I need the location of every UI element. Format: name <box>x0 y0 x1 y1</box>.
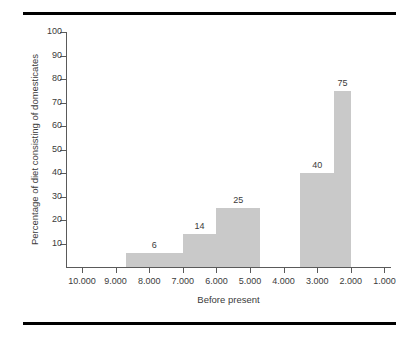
y-axis-tick-label: 90 <box>52 50 62 61</box>
x-axis-tick-mark <box>351 267 352 273</box>
bar <box>216 208 260 267</box>
x-axis-tick-label: 4.000 <box>272 276 295 287</box>
bar-value-label: 25 <box>233 195 243 206</box>
y-axis-tick-label: 50 <box>52 144 62 155</box>
y-axis-tick-label: 70 <box>52 97 62 108</box>
x-axis-tick-label: 10.000 <box>68 276 96 287</box>
bar <box>126 253 183 267</box>
bottom-rule <box>23 322 396 325</box>
y-axis-tick-label: 20 <box>52 214 62 225</box>
bar <box>300 173 334 267</box>
x-axis-tick-mark <box>149 267 150 273</box>
x-axis-tick-mark <box>384 267 385 273</box>
x-axis-tick-label: 6.000 <box>205 276 228 287</box>
y-axis-tick-label: 10 <box>52 238 62 249</box>
x-axis-tick-mark <box>216 267 217 273</box>
x-axis-tick-mark <box>82 267 83 273</box>
bar <box>183 234 217 267</box>
x-axis-tick-label: 7.000 <box>172 276 195 287</box>
x-axis-tick-label: 2.000 <box>340 276 363 287</box>
x-axis-tick-label: 8.000 <box>138 276 161 287</box>
figure: Percentage of diet consisting of domesti… <box>0 0 418 338</box>
bar-value-label: 14 <box>195 221 205 232</box>
x-axis-tick-label: 9.000 <box>104 276 127 287</box>
bar-value-label: 6 <box>152 240 157 251</box>
y-axis-title: Percentage of diet consisting of domesti… <box>28 32 42 267</box>
bar-value-label: 40 <box>312 160 322 171</box>
x-axis-title: Before present <box>66 294 391 306</box>
y-axis-tick-label: 30 <box>52 191 62 202</box>
x-axis-tick-mark <box>116 267 117 273</box>
x-axis-tick-mark <box>317 267 318 273</box>
bar-value-label: 75 <box>337 78 347 89</box>
y-axis-tick-label: 100 <box>47 26 62 37</box>
plot-area: 102030405060708090100 614254075 <box>66 32 390 267</box>
x-axis-tick-mark <box>183 267 184 273</box>
bar <box>334 91 351 267</box>
x-axis-tick-label: 1.000 <box>373 276 396 287</box>
y-axis-tick-label: 60 <box>52 120 62 131</box>
top-rule <box>23 12 396 15</box>
y-axis-tick-label: 80 <box>52 73 62 84</box>
y-axis-tick-label: 40 <box>52 167 62 178</box>
x-axis-tick-mark <box>284 267 285 273</box>
x-axis-tick-mark <box>250 267 251 273</box>
x-axis-tick-label: 5.000 <box>239 276 262 287</box>
x-axis-tick-label: 3.000 <box>306 276 329 287</box>
